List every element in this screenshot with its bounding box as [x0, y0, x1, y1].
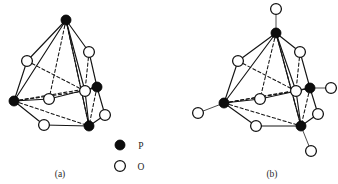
atom-p-bottom-a — [84, 121, 94, 131]
atom-legend: P O — [115, 140, 145, 172]
panel-a-bonds-solid — [14, 20, 105, 126]
bond-oupperleft-pleft — [14, 61, 27, 101]
panel-a-structure — [9, 15, 110, 131]
atom-p-left-a — [9, 96, 19, 106]
caption-panel-a: (a) — [55, 169, 66, 180]
legend-filled-circle-icon — [115, 140, 125, 150]
atom-o-lower-right-a — [100, 110, 111, 121]
panel-b-structure — [193, 4, 337, 157]
atom-o-terminal-bottom-b — [306, 146, 317, 157]
atom-o-inner-mid-b — [291, 86, 302, 97]
atom-p-left-b — [219, 98, 229, 108]
legend-open-circle-icon — [115, 161, 126, 172]
atom-o-lower-left-b — [251, 121, 262, 132]
atom-o-terminal-left-b — [193, 108, 204, 119]
legend-label-o: O — [138, 162, 145, 172]
atom-o-inner-left-a — [44, 94, 55, 105]
atom-o-upper-left-b — [233, 56, 244, 67]
bond-olowerleft-pbottom — [44, 125, 89, 126]
atom-p-top-b — [271, 28, 281, 38]
atom-p-right-b — [305, 83, 315, 93]
bond-oupperleft-pleft-b — [224, 61, 238, 103]
atom-p-bottom-b — [296, 121, 306, 131]
bond-ptop-oupperleft — [27, 20, 66, 61]
atom-o-upper-right-a — [84, 47, 95, 58]
figure-container: P O (a) (b) — [0, 0, 338, 184]
atom-o-upper-left-a — [22, 56, 33, 67]
atom-p-top-a — [61, 15, 71, 25]
atom-o-upper-right-b — [295, 47, 306, 58]
atom-o-inner-mid-a — [80, 86, 91, 97]
edge-pleft-pbottom-hidden-b — [224, 103, 301, 126]
edge-pleft-pbottom-hidden — [14, 101, 89, 126]
atom-o-inner-left-b — [255, 94, 266, 105]
caption-panel-b: (b) — [266, 169, 277, 180]
atom-o-terminal-top-b — [271, 4, 282, 15]
atom-o-lower-right-b — [313, 109, 324, 120]
atom-p-right-a — [92, 82, 102, 92]
atom-o-lower-left-a — [39, 120, 50, 131]
edge-ptop-pleft-b — [224, 33, 276, 103]
bond-ptop-oinnerleft-hidden — [49, 20, 66, 99]
atom-o-terminal-right-b — [326, 83, 337, 94]
legend-label-p: P — [138, 141, 143, 151]
molecular-structure-diagram: P O (a) (b) — [0, 0, 338, 184]
